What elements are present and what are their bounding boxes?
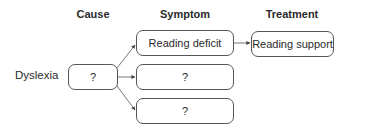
- treatment-box-text: Reading support: [252, 38, 333, 50]
- symptom-box-reading-deficit: Reading deficit: [136, 30, 234, 56]
- symptom-box-unknown-2: ?: [136, 98, 234, 124]
- symptom-box-text: ?: [182, 105, 188, 117]
- treatment-box-reading-support: Reading support: [251, 31, 334, 57]
- symptom-box-text: Reading deficit: [149, 37, 222, 49]
- cause-box-text: ?: [90, 71, 96, 83]
- arrow-cause-to-symptom-1: [117, 45, 135, 68]
- arrow-cause-to-symptom-3: [117, 86, 135, 110]
- symptom-box-text: ?: [182, 71, 188, 83]
- symptom-box-unknown-1: ?: [136, 64, 234, 90]
- cause-box: ?: [68, 64, 118, 90]
